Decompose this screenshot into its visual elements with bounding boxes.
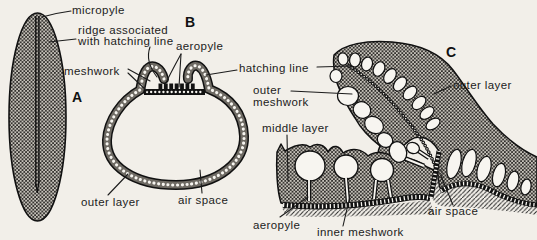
label-outer-layer-c: outer layer <box>453 79 512 91</box>
leader-outer-layer-b <box>108 174 128 195</box>
panel-a <box>9 13 66 221</box>
aeropyle-blocks <box>159 84 195 91</box>
leader-aeropyle-b-2 <box>179 54 181 87</box>
panel-letter-b: B <box>185 14 195 30</box>
panel-letter-a: A <box>72 89 82 105</box>
label-meshwork: meshwork <box>64 65 120 77</box>
label-aeropyle-c: aeropyle <box>253 219 300 231</box>
label-micropyle: micropyle <box>72 4 125 16</box>
label-ridge-line2: with hatching line <box>77 35 173 47</box>
egg-structure-diagram: micropyle ridge associated with hatching… <box>0 0 537 240</box>
label-middle-layer: middle layer <box>262 122 329 134</box>
panel-b <box>107 66 244 185</box>
label-inner-meshwork: inner meshwork <box>317 226 404 238</box>
label-outer-layer-b: outer layer <box>81 196 140 208</box>
label-air-space-c: air space <box>428 205 478 217</box>
leader-micropyle <box>42 11 71 17</box>
label-outer-meshwork-2: meshwork <box>253 96 309 108</box>
panel-letter-c: C <box>446 44 456 60</box>
label-outer-meshwork-1: outer <box>253 84 281 96</box>
leader-aeropyle-b-1 <box>165 54 181 85</box>
label-hatching-line: hatching line <box>239 62 309 74</box>
label-air-space-b: air space <box>178 194 228 206</box>
leader-hatching-line-left <box>206 70 237 75</box>
label-aeropyle-b: aeropyle <box>176 40 223 52</box>
figure-canvas: micropyle ridge associated with hatching… <box>0 0 537 240</box>
